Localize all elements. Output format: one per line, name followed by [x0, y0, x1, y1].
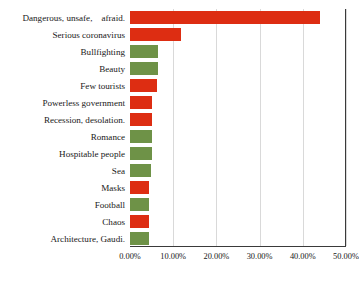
category-label: Masks [101, 181, 125, 195]
gridline [346, 9, 347, 246]
category-label: Powerless government [42, 96, 125, 110]
category-label: Romance [91, 130, 125, 144]
bar [130, 62, 158, 75]
category-label: Chaos [102, 215, 125, 229]
x-axis-tick-label: 50.00% [333, 250, 359, 264]
x-axis-tick-label: 0.00% [119, 250, 141, 264]
category-label: Serious coronavirus [53, 28, 125, 42]
category-label: Bullfighting [81, 45, 125, 59]
category-label-column: Dangerous, unsafe, afraid.Serious corona… [0, 9, 128, 247]
category-label: Architecture, Gaudi. [51, 232, 126, 246]
x-axis-tick-label: 40.00% [290, 250, 316, 264]
plot-area [130, 9, 346, 247]
bar [130, 181, 149, 194]
bar [130, 147, 152, 160]
category-label: Dangerous, unsafe, afraid. [22, 11, 125, 25]
x-axis-tick-label: 20.00% [203, 250, 229, 264]
bar [130, 198, 149, 211]
x-axis-tick-labels: 0.00%10.00%20.00%30.00%40.00%50.00% [130, 250, 346, 266]
x-axis-tick-label: 10.00% [160, 250, 186, 264]
bar [130, 11, 320, 24]
category-label: Football [95, 198, 125, 212]
bar [130, 232, 149, 245]
bar [130, 113, 152, 126]
bar [130, 96, 152, 109]
category-label: Hospitable people [59, 147, 125, 161]
bar [130, 130, 152, 143]
category-label: Beauty [99, 62, 125, 76]
bars-layer [130, 9, 345, 246]
x-axis-tick-label: 30.00% [247, 250, 273, 264]
bar [130, 215, 149, 228]
bar [130, 164, 151, 177]
category-label: Few tourists [80, 79, 125, 93]
bar [130, 79, 157, 92]
category-label: Sea [112, 164, 125, 178]
category-label: Recession, desolation. [44, 113, 125, 127]
bar [130, 28, 181, 41]
bar [130, 45, 158, 58]
